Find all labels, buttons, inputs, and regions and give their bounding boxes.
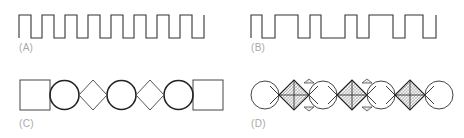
circle-shape [367, 81, 395, 109]
panel-label-d: (D) [251, 118, 266, 129]
circle-shape [251, 81, 279, 109]
circle-shape [425, 81, 453, 109]
shape-sequence-d [0, 0, 464, 138]
panel-d: (D) [0, 0, 464, 138]
circle-shape [309, 81, 337, 109]
